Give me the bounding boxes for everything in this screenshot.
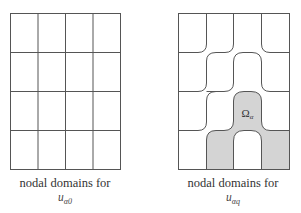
right-caption: nodal domains for uαq — [158, 176, 301, 209]
left-caption-text: nodal domains for — [0, 176, 140, 190]
right-caption-math: uαq — [158, 190, 301, 209]
right-panel: Ωα — [179, 14, 290, 170]
nodal-line — [179, 14, 207, 53]
left-grid — [11, 14, 121, 170]
caption-sub: αq — [232, 197, 240, 206]
nodal-line — [179, 92, 217, 131]
nodal-line — [234, 131, 262, 170]
nodal-line — [207, 53, 290, 92]
caption-sub: α0 — [64, 197, 72, 206]
nodal-line — [262, 14, 290, 53]
left-caption: nodal domains for uα0 — [0, 176, 140, 209]
right-caption-text: nodal domains for — [158, 176, 301, 190]
left-caption-math: uα0 — [0, 190, 140, 209]
